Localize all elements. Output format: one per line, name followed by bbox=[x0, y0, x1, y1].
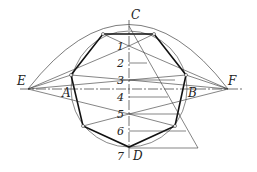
label-d: D bbox=[132, 149, 143, 163]
division-label-1: 1 bbox=[117, 40, 124, 53]
division-label-3: 3 bbox=[117, 74, 124, 87]
label-c: C bbox=[131, 8, 140, 22]
division-label-5: 5 bbox=[117, 108, 124, 121]
label-b: B bbox=[187, 86, 197, 100]
division-label-6: 6 bbox=[117, 125, 124, 138]
label-a: A bbox=[61, 86, 71, 100]
heptagon-construction-diagram: C D E F A B 1 2 3 4 5 6 7 bbox=[0, 0, 257, 172]
division-label-4: 4 bbox=[116, 91, 124, 104]
label-f: F bbox=[227, 74, 237, 88]
division-label-2: 2 bbox=[116, 57, 124, 70]
division-label-7: 7 bbox=[117, 150, 124, 163]
label-e: E bbox=[16, 74, 26, 88]
